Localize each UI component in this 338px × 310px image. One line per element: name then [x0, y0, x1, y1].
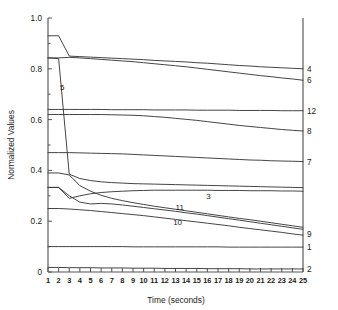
- x-tick-label: 1: [46, 276, 50, 285]
- x-tick-label: 22: [267, 276, 275, 285]
- inline-annotation-11: 11: [176, 203, 185, 212]
- right-axis-label-6: 6: [307, 76, 312, 85]
- x-tick-label: 9: [131, 276, 135, 285]
- x-tick-label: 23: [278, 276, 286, 285]
- y-tick-label: 0.2: [31, 217, 43, 226]
- right-axis-label-9: 9: [307, 230, 312, 239]
- x-tick-label: 16: [203, 276, 211, 285]
- x-tick-label: 11: [150, 276, 158, 285]
- x-tick-label: 7: [110, 276, 114, 285]
- y-axis-title: Normalized Values: [6, 110, 16, 180]
- series-group: [48, 36, 303, 269]
- x-tick-label: 13: [171, 276, 179, 285]
- series-line-5: [48, 58, 303, 188]
- y-tick-label: 0: [37, 268, 42, 277]
- right-axis-label-12: 12: [307, 107, 317, 116]
- x-tick-label: 10: [140, 276, 148, 285]
- x-tick-label: 15: [193, 276, 201, 285]
- x-tick-label: 8: [120, 276, 124, 285]
- inline-annotation-5: 5: [60, 83, 65, 92]
- right-axis-label-group: 461287912: [307, 65, 317, 274]
- right-axis-label-4: 4: [307, 65, 312, 74]
- x-tick-label: 19: [235, 276, 243, 285]
- y-tick-label: 0.6: [31, 116, 43, 125]
- x-tick-label: 21: [256, 276, 264, 285]
- line-chart: 00.20.40.60.81.0 12345678910111213141516…: [0, 0, 338, 310]
- x-tick-label-group: 1234567891011121314151617181920212223242…: [46, 276, 307, 285]
- x-tick-label: 5: [88, 276, 92, 285]
- series-line-12: [48, 109, 303, 110]
- y-tick-label: 0.8: [31, 65, 43, 74]
- right-axis-label-1: 1: [307, 243, 312, 252]
- inline-annotation-10: 10: [173, 218, 182, 227]
- chart-figure: 00.20.40.60.81.0 12345678910111213141516…: [0, 0, 338, 310]
- x-tick-label: 14: [182, 276, 191, 285]
- right-axis-label-2: 2: [307, 265, 312, 274]
- x-tick-label: 12: [161, 276, 169, 285]
- x-tick-label: 6: [99, 276, 103, 285]
- x-tick-label: 3: [67, 276, 71, 285]
- x-tick-label: 18: [225, 276, 233, 285]
- series-line-6: [48, 57, 303, 80]
- y-tick-label: 1.0: [31, 14, 43, 23]
- series-line-4: [48, 36, 303, 69]
- series-line-7: [48, 153, 303, 162]
- y-tick-label-group: 00.20.40.60.81.0: [31, 14, 43, 277]
- series-line-1: [48, 247, 303, 248]
- y-tick-label: 0.4: [31, 166, 43, 175]
- inline-annotation-group: 531110: [60, 83, 211, 227]
- x-tick-label: 4: [78, 276, 83, 285]
- series-line-8: [48, 115, 303, 132]
- right-axis-label-7: 7: [307, 158, 312, 167]
- y-tick-group: [48, 18, 52, 272]
- x-tick-label: 25: [299, 276, 307, 285]
- x-axis-title: Time (seconds): [147, 295, 205, 305]
- inline-annotation-3: 3: [206, 192, 211, 201]
- x-tick-label: 2: [57, 276, 61, 285]
- x-tick-label: 20: [246, 276, 254, 285]
- right-axis-label-8: 8: [307, 127, 312, 136]
- x-tick-label: 17: [214, 276, 222, 285]
- series-line-2: [48, 267, 303, 269]
- x-tick-label: 24: [288, 276, 297, 285]
